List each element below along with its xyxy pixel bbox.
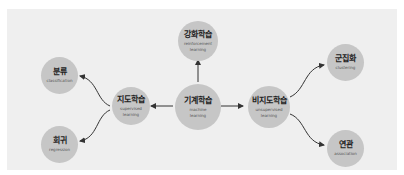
node-label-ko: 지도학습 — [117, 95, 145, 105]
node-machine-learning: 기계학습 machine learning — [175, 84, 221, 130]
node-label-ko: 회귀 — [53, 136, 67, 146]
node-label-en: clustering — [336, 65, 356, 71]
edge-sl-cls — [80, 76, 110, 106]
node-label-en: machine learning — [189, 107, 206, 118]
node-label-en: unsupervised learning — [256, 107, 283, 118]
node-label-en: reinforcement learning — [184, 41, 212, 52]
node-reinforcement-learning: 강화학습 reinforcement learning — [178, 21, 218, 61]
node-supervised-learning: 지도학습 supervised learning — [112, 87, 150, 125]
node-label-en: regression — [49, 147, 70, 153]
node-label-ko: 연관 — [339, 140, 353, 150]
node-label-ko: 강화학습 — [184, 30, 212, 40]
node-regression: 회귀 regression — [41, 126, 78, 163]
edge-sl-reg — [80, 110, 110, 141]
node-label-ko: 비지도학습 — [252, 96, 287, 106]
node-clustering: 군집화 clustering — [327, 44, 364, 81]
node-unsupervised-learning: 비지도학습 unsupervised learning — [248, 86, 290, 128]
node-label-en: supervised learning — [120, 106, 142, 117]
node-label-ko: 군집화 — [335, 54, 356, 64]
node-label-en: classification — [47, 78, 73, 84]
node-label-ko: 기계학습 — [184, 96, 212, 106]
edge-ul-clu — [290, 65, 324, 97]
node-label-ko: 분류 — [53, 67, 67, 77]
node-classification: 분류 classification — [41, 57, 78, 94]
node-label-en: association — [334, 151, 357, 157]
edge-ul-asc — [290, 114, 324, 145]
node-association: 연관 association — [327, 130, 364, 167]
